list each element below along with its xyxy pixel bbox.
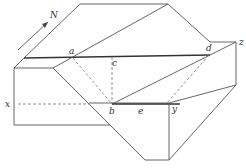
label-y: y <box>171 104 178 114</box>
label-d: d <box>206 43 212 53</box>
label-x: x <box>5 99 10 109</box>
block-diagram: N a b c d e x y z <box>0 0 246 168</box>
right-front-face <box>145 103 169 160</box>
edge <box>169 85 236 103</box>
north-label: N <box>49 10 59 20</box>
label-b: b <box>109 106 115 116</box>
north-arrow-icon <box>18 22 48 50</box>
edge <box>14 58 24 68</box>
edge <box>169 85 236 160</box>
fault-slope-front <box>53 68 145 160</box>
label-z: z <box>238 37 244 47</box>
dashed-de <box>166 55 209 104</box>
label-c: c <box>112 58 117 68</box>
dashed-ab <box>73 58 112 104</box>
label-a: a <box>69 46 74 56</box>
label-e: e <box>138 106 143 116</box>
